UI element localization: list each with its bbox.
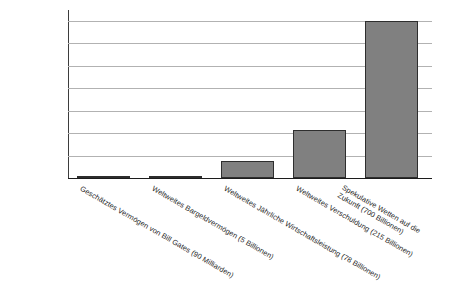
bar-0[interactable] [77, 176, 130, 178]
bar-chart: 700000 600000 500000 400000 300000 20000… [0, 0, 450, 307]
bar-4[interactable] [365, 21, 418, 178]
bar-2[interactable] [221, 161, 274, 178]
bar-3[interactable] [293, 130, 346, 178]
bar-1[interactable] [149, 176, 202, 178]
x-axis-line [68, 178, 432, 179]
plot-area [68, 21, 432, 178]
x-label-1: Weltweites Bargeldvermögen (5 Billionen) [150, 184, 275, 262]
x-label-0: Geschätztes Vermögen von Bill Gates (90 … [78, 184, 235, 280]
